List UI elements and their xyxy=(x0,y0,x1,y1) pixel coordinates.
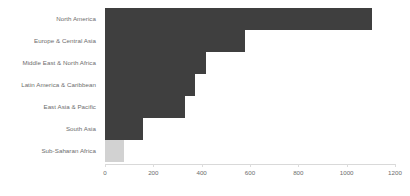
category-label: East Asia & Pacific xyxy=(0,104,96,110)
bar-series-item xyxy=(105,118,143,140)
category-label: South Asia xyxy=(0,126,96,132)
category-label: Europe & Central Asia xyxy=(0,38,96,44)
x-axis-ticks xyxy=(105,164,395,168)
x-axis-tick-label: 800 xyxy=(293,170,303,176)
bar-series-item xyxy=(105,52,206,74)
x-axis-tick-label: 400 xyxy=(196,170,206,176)
x-axis-tick xyxy=(202,164,203,167)
x-axis-tick xyxy=(395,164,396,167)
x-axis-tick xyxy=(298,164,299,167)
x-axis-tick-label: 1000 xyxy=(340,170,354,176)
x-axis-tick-labels: 020040060080010001200 xyxy=(105,170,395,182)
plot-area xyxy=(105,0,395,164)
x-axis-tick xyxy=(347,164,348,167)
x-axis-tick xyxy=(105,164,106,167)
x-axis-tick-label: 1200 xyxy=(388,170,402,176)
category-label: Latin America & Caribbean xyxy=(0,82,96,88)
bar-series-item xyxy=(105,8,372,30)
x-axis-tick-label: 200 xyxy=(148,170,158,176)
bar-series-item xyxy=(105,140,124,162)
bar-series-item xyxy=(105,30,245,52)
x-axis-tick-label: 600 xyxy=(245,170,255,176)
x-axis-tick xyxy=(153,164,154,167)
bar-chart: North America Europe & Central Asia Midd… xyxy=(0,0,410,196)
x-axis-tick xyxy=(250,164,251,167)
x-axis-tick-label: 0 xyxy=(103,170,106,176)
category-label: Sub-Saharan Africa xyxy=(0,148,96,154)
category-axis-labels: North America Europe & Central Asia Midd… xyxy=(0,8,100,164)
category-label: Middle East & North Africa xyxy=(0,60,96,66)
bar-series-item xyxy=(105,96,185,118)
bar-series-item xyxy=(105,74,195,96)
category-label: North America xyxy=(0,16,96,22)
